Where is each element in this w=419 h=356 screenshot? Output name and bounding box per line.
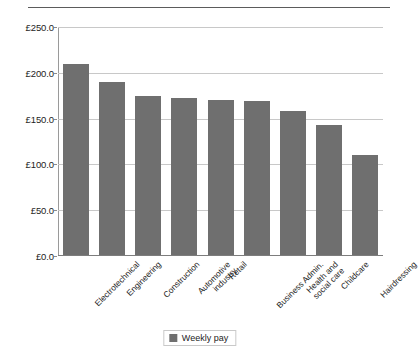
chart-legend: Weekly pay xyxy=(163,330,236,346)
y-axis-tick-mark xyxy=(54,164,57,165)
bar xyxy=(316,125,342,256)
bar xyxy=(171,98,197,256)
x-axis-labels: ElectrotechnicalEngineeringConstructionA… xyxy=(58,258,383,326)
y-axis-tick-mark xyxy=(54,210,57,211)
y-axis-tick-mark xyxy=(54,256,57,257)
bar xyxy=(208,100,234,256)
y-axis-tick-mark xyxy=(54,119,57,120)
top-divider-rule xyxy=(28,7,390,8)
legend-swatch-weekly-pay xyxy=(169,334,177,342)
x-axis-tick-label: Hairdressing xyxy=(379,260,419,300)
x-axis-tick-label-line: Hairdressing xyxy=(378,259,418,299)
bar xyxy=(63,64,89,256)
plot-area xyxy=(58,27,383,256)
gridline xyxy=(58,73,383,74)
y-axis-tick-label: £0.0 xyxy=(36,251,54,262)
bar xyxy=(135,96,161,256)
x-axis-tick-label-line: Construction xyxy=(161,259,201,299)
bar xyxy=(99,82,125,256)
x-axis-baseline xyxy=(58,255,383,256)
bar xyxy=(352,155,378,256)
x-axis-tick-label: Construction xyxy=(162,260,202,300)
y-axis-tick-label: £50.0 xyxy=(31,205,54,216)
legend-label-weekly-pay: Weekly pay xyxy=(182,333,228,343)
y-axis-labels: £250.0£200.0£150.0£100.0£50.0£0.0 xyxy=(0,27,54,256)
y-axis-tick-mark xyxy=(54,27,57,28)
y-axis-tick-label: £150.0 xyxy=(26,113,54,124)
y-axis-tick-label: £200.0 xyxy=(26,67,54,78)
y-axis-tick-label: £100.0 xyxy=(26,159,54,170)
bar xyxy=(244,101,270,256)
y-axis-tick-mark xyxy=(54,73,57,74)
bar xyxy=(280,111,306,256)
y-axis-tick-label: £250.0 xyxy=(26,22,54,33)
gridline xyxy=(58,27,383,28)
